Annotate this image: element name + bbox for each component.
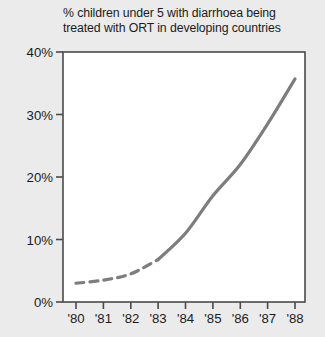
x-axis-label-81: '81: [95, 311, 112, 326]
y-axis-ticks: [56, 52, 63, 302]
x-axis-label-88: '88: [286, 311, 303, 326]
x-axis-label-84: '84: [177, 311, 194, 326]
plot-area-background: [63, 52, 305, 302]
x-axis-label-82: '82: [122, 311, 139, 326]
x-axis-label-87: '87: [259, 311, 276, 326]
x-axis-labels: '80 '81 '82 '83 '84 '85 '86 '87 '88: [67, 311, 303, 326]
line-chart-plot: 40% 30% 20% 10% 0% '80 '81 '82 '83 '84 '…: [0, 0, 325, 337]
chart-figure: % children under 5 with diarrhoea being …: [0, 0, 325, 337]
y-axis-label-10: 10%: [27, 233, 54, 248]
y-axis-label-20: 20%: [27, 170, 54, 185]
x-axis-label-83: '83: [150, 311, 167, 326]
y-axis-label-30: 30%: [27, 108, 54, 123]
y-axis-label-40: 40%: [27, 45, 54, 60]
x-axis-label-86: '86: [232, 311, 249, 326]
x-axis-ticks: [76, 302, 295, 309]
x-axis-label-80: '80: [67, 311, 84, 326]
x-axis-label-85: '85: [204, 311, 221, 326]
y-axis-labels: 40% 30% 20% 10% 0%: [27, 45, 54, 310]
y-axis-label-0: 0%: [34, 295, 53, 310]
